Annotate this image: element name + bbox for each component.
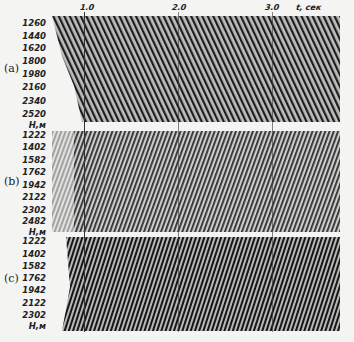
depth-label: 1260 xyxy=(20,18,46,28)
depth-label: 1800 xyxy=(20,56,46,66)
seismic-panel-a xyxy=(52,16,340,122)
depth-label: 1402 xyxy=(20,249,46,259)
depth-label: 2520 xyxy=(20,109,46,119)
depth-label: 2302 xyxy=(20,205,46,215)
depth-label: 1942 xyxy=(20,180,46,190)
depth-label: 1582 xyxy=(20,261,46,271)
depth-label: 2160 xyxy=(20,82,46,92)
depth-label: 2340 xyxy=(20,96,46,106)
depth-unit: H,м xyxy=(20,120,46,130)
depth-label: 1582 xyxy=(20,155,46,165)
panel-label-c: (c) xyxy=(4,272,19,285)
seismic-panel-b xyxy=(52,131,340,232)
depth-label: 1222 xyxy=(20,130,46,140)
depth-label: 2302 xyxy=(20,310,46,320)
panel-label-a: (a) xyxy=(4,62,19,75)
panel-label-b: (b) xyxy=(4,175,20,188)
time-tick-2: 2.0 xyxy=(171,3,186,12)
depth-label: 1402 xyxy=(20,142,46,152)
time-gridline-2 xyxy=(178,12,179,332)
depth-unit: H,м xyxy=(20,321,46,331)
depth-label: 2122 xyxy=(20,192,46,202)
depth-label: 1222 xyxy=(20,236,46,246)
depth-label: 1980 xyxy=(20,69,46,79)
depth-label: 1620 xyxy=(20,43,46,53)
depth-label: 2122 xyxy=(20,298,46,308)
time-tick-3: 3.0 xyxy=(264,3,279,12)
depth-label: 1762 xyxy=(20,167,46,177)
depth-label: 2482 xyxy=(20,216,46,226)
time-gridline-3 xyxy=(272,12,273,332)
depth-label: 1942 xyxy=(20,285,46,295)
depth-label: 1440 xyxy=(20,31,46,41)
time-tick-1: 1.0 xyxy=(79,3,94,12)
depth-label: 1762 xyxy=(20,273,46,283)
seismic-panel-c xyxy=(52,237,340,331)
time-gridline-1 xyxy=(84,12,85,332)
time-axis-label: t, сек xyxy=(295,3,322,12)
